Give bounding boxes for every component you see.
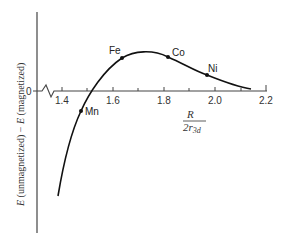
x-axis-label: R 2r3d [183,108,206,135]
x-tick-label-2.0: 2.0 [208,95,222,106]
point-mn [79,109,83,113]
point-fe [120,56,124,60]
x-tick-label-1.8: 1.8 [157,95,171,106]
point-co [166,55,170,59]
bethe-slater-curve [58,52,251,196]
x-axis-break-zigzag [37,85,267,97]
bethe-slater-chart: 0 1.4 1.6 1.8 2.0 2.2 Mn Fe Co Ni R 2r3d… [0,0,288,243]
point-label-ni: Ni [208,63,217,74]
point-label-fe: Fe [109,45,121,56]
x-label-numerator: R [186,108,194,120]
y-zero-label: 0 [26,86,32,97]
y-axis-label: E (unmagnetized) − E (magnetized) [15,63,27,207]
x-label-denominator: 2r3d [183,121,202,135]
point-label-mn: Mn [85,106,99,117]
x-tick-label-1.4: 1.4 [55,95,69,106]
point-label-co: Co [172,47,185,58]
x-tick-label-2.2: 2.2 [259,95,273,106]
x-tick-label-1.6: 1.6 [106,95,120,106]
